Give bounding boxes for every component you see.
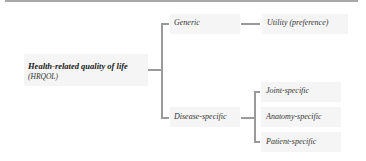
connector-disease-children: [241, 117, 255, 119]
connector-generic-utility: [241, 23, 260, 25]
node-anatomy-specific-label: Anatomy-specific: [266, 112, 322, 121]
node-generic-label: Generic: [174, 18, 200, 27]
connector-joint: [254, 91, 260, 93]
root-node-abbreviation: (HRQOL): [28, 72, 58, 81]
root-connector: [148, 69, 162, 71]
branch-connector-disease: [161, 117, 169, 119]
connector-patient: [254, 141, 260, 143]
node-joint-specific-label: Joint-specific: [266, 86, 309, 95]
branch-connector-generic: [161, 23, 169, 25]
node-patient-specific-label: Patient-specific: [266, 137, 316, 146]
disease-branch-vertical: [254, 91, 256, 143]
root-node-title: Health-related quality of life: [28, 61, 128, 71]
root-branch-vertical: [161, 23, 163, 119]
top-rule: [5, 0, 358, 2]
node-disease-specific-label: Disease-specific: [174, 112, 226, 121]
node-utility-label: Utility (preference): [267, 18, 328, 27]
